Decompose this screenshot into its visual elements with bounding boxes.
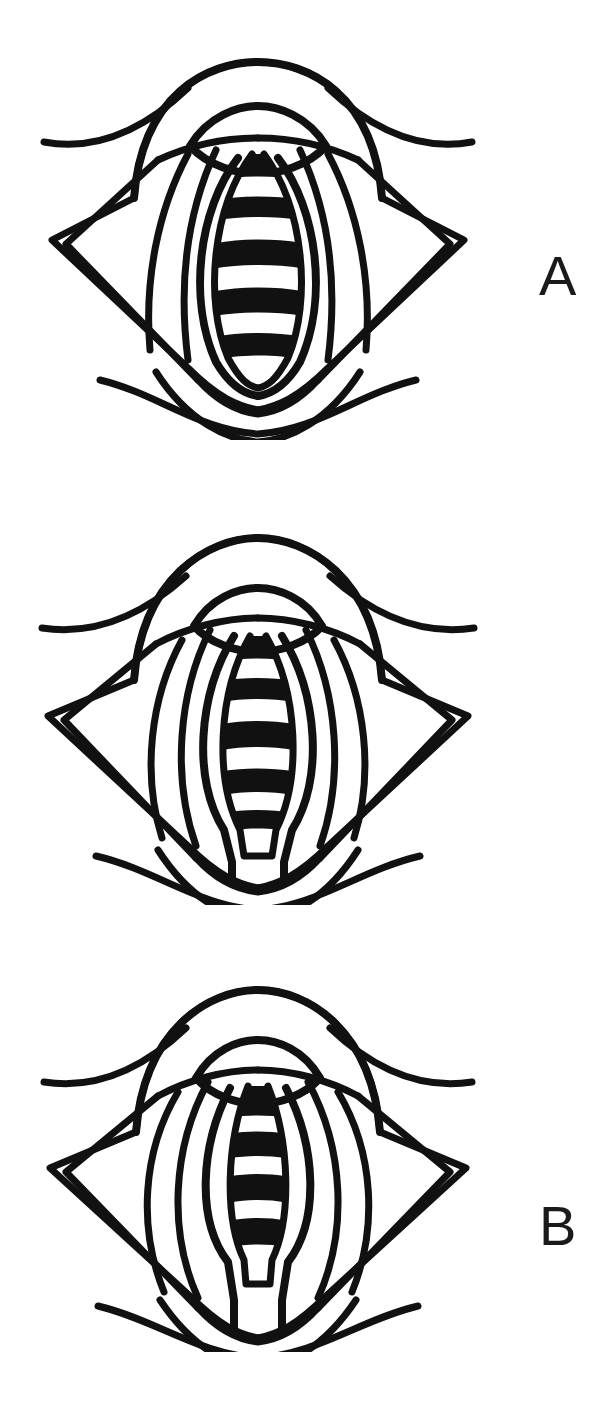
figure-panel-c: C bbox=[0, 980, 612, 1345]
right-vestibular-fold-b bbox=[334, 640, 365, 838]
larynx-diagram-c bbox=[38, 980, 478, 1352]
right-vestibular-fold-c bbox=[338, 1092, 369, 1292]
glottal-aperture-b bbox=[186, 626, 330, 870]
right-pyriform-sweep-a bbox=[328, 88, 472, 144]
larynx-diagram-b bbox=[38, 530, 478, 905]
left-vestibular-fold-b bbox=[151, 640, 182, 838]
figure-panel-a: A bbox=[0, 50, 612, 430]
larynx-diagram-a bbox=[38, 50, 478, 440]
left-vestibular-fold-c bbox=[147, 1092, 178, 1292]
figure-label-a: A bbox=[539, 248, 612, 304]
subglottic-arc-outer-b bbox=[96, 856, 420, 905]
left-pyriform-sweep-a bbox=[44, 88, 188, 144]
figure-panel-b: B bbox=[0, 530, 612, 890]
